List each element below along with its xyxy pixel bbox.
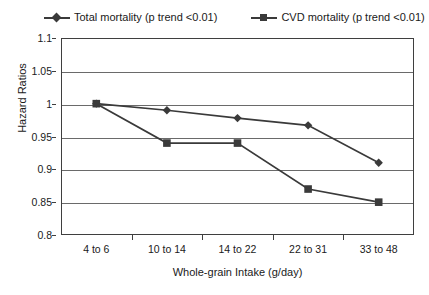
data-point-diamond [233, 114, 241, 122]
square-marker-icon [251, 12, 277, 23]
data-point-diamond [163, 106, 171, 114]
data-series-layer [61, 38, 414, 235]
data-point-square [93, 100, 101, 108]
y-axis-ticks: 1.1 1.05 1 0.95 0.9 0.85 0.8 [0, 38, 56, 235]
y-tick-label: 0.9 [0, 164, 52, 174]
legend-entry-total-mortality: Total mortality (p trend <0.01) [44, 11, 217, 24]
legend-label-cvd-mortality: CVD mortality (p trend <0.01) [281, 11, 424, 24]
chart-legend: Total mortality (p trend <0.01) CVD mort… [44, 11, 425, 24]
series-line [96, 104, 378, 163]
legend-label-total-mortality: Total mortality (p trend <0.01) [74, 11, 217, 24]
data-point-diamond [375, 159, 383, 167]
x-axis-labels: 4 to 6 10 to 14 14 to 22 22 to 31 33 to … [61, 242, 414, 258]
x-tick-label: 33 to 48 [343, 242, 414, 258]
data-point-diamond [304, 121, 312, 129]
data-point-square [375, 198, 383, 206]
data-point-square [234, 139, 242, 147]
legend-entry-cvd-mortality: CVD mortality (p trend <0.01) [251, 11, 424, 24]
data-point-square [163, 139, 171, 147]
y-tick-label: 0.85 [0, 197, 52, 207]
y-tick-label: 0.8 [0, 230, 52, 240]
x-tick-label: 14 to 22 [202, 242, 273, 258]
x-tick-label: 22 to 31 [273, 242, 344, 258]
diamond-marker-icon [44, 12, 70, 23]
hazard-ratio-line-chart: Total mortality (p trend <0.01) CVD mort… [0, 0, 429, 295]
x-tick-label: 4 to 6 [61, 242, 132, 258]
x-axis-title: Whole-grain Intake (g/day) [61, 266, 414, 278]
data-point-square [304, 185, 312, 193]
x-tick-label: 10 to 14 [132, 242, 203, 258]
y-axis-title: Hazard Ratios [16, 38, 28, 158]
series-total-mortality [92, 99, 383, 166]
